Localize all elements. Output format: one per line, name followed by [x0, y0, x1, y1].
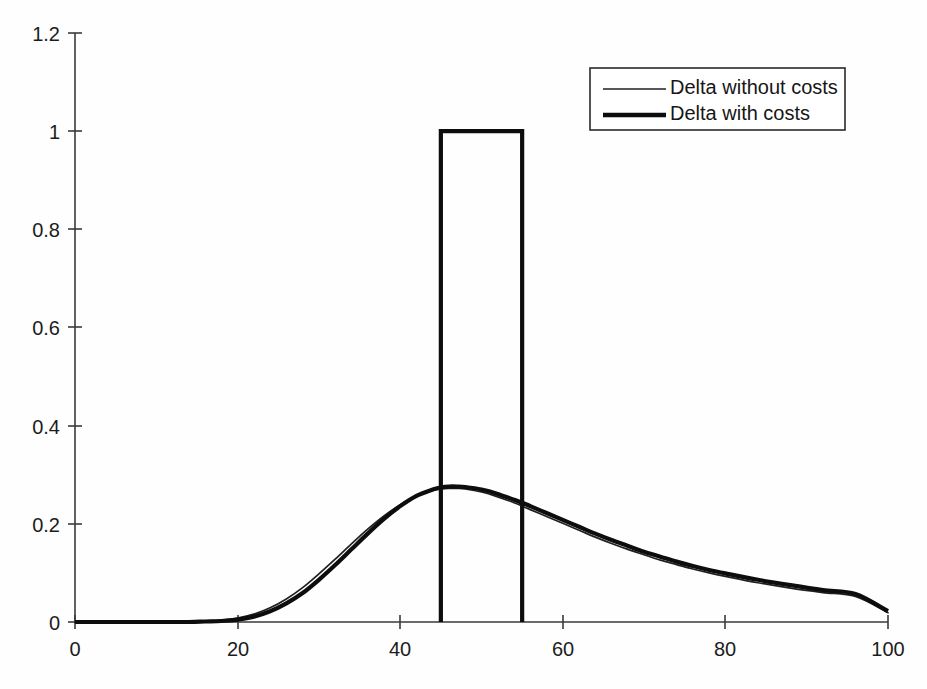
x-tick-label-0: 0: [69, 638, 80, 660]
chart-legend: Delta without costs Delta with costs: [590, 68, 845, 130]
series-delta-with-costs-pulse: [441, 131, 522, 622]
y-tick-label-0_8: 0.8: [32, 219, 60, 241]
y-tick-label-1: 1: [49, 121, 60, 143]
chart-figure: 1.2 1 0.8 0.6 0.4 0.2 0 0 20 40 60 80 10…: [0, 0, 927, 689]
y-tick-label-0: 0: [49, 612, 60, 634]
delta-line-chart: 1.2 1 0.8 0.6 0.4 0.2 0 0 20 40 60 80 10…: [0, 0, 927, 689]
x-tick-label-20: 20: [227, 638, 249, 660]
x-tick-label-80: 80: [714, 638, 736, 660]
x-tick-label-100: 100: [871, 638, 904, 660]
series-delta-with-costs: [75, 486, 888, 622]
legend-label-without-costs: Delta without costs: [670, 76, 838, 98]
x-tick-label-60: 60: [552, 638, 574, 660]
y-tick-label-0_6: 0.6: [32, 317, 60, 339]
legend-label-with-costs: Delta with costs: [670, 102, 810, 124]
x-tick-label-40: 40: [389, 638, 411, 660]
y-tick-label-0_2: 0.2: [32, 514, 60, 536]
series-delta-without-costs: [75, 488, 888, 622]
y-tick-label-1_2: 1.2: [32, 23, 60, 45]
series-group: [75, 131, 888, 622]
y-tick-label-0_4: 0.4: [32, 416, 60, 438]
